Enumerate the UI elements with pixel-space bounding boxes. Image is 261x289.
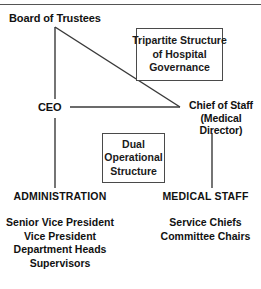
node-chief-of-staff-subtitle: (Medical Director) (182, 112, 260, 137)
column-medical-staff: MEDICAL STAFF Service Chiefs Committee C… (150, 190, 261, 243)
list-item: Committee Chairs (150, 230, 261, 244)
column-medical-staff-list: Service Chiefs Committee Chairs (150, 216, 261, 243)
callout-dual-line-1: Dual (122, 138, 145, 152)
callout-tripartite-line-2: of Hospital (152, 48, 206, 62)
hospital-governance-diagram: Board of Trustees CEO Chief of Staff (Me… (0, 0, 261, 289)
column-administration: ADMINISTRATION Senior Vice President Vic… (0, 190, 120, 270)
node-chief-of-staff-title: Chief of Staff (182, 99, 260, 112)
callout-tripartite-structure: Tripartite Structure of Hospital Governa… (136, 28, 223, 81)
column-administration-list: Senior Vice President Vice President Dep… (0, 216, 120, 270)
list-item: Service Chiefs (150, 216, 261, 230)
column-medical-staff-heading: MEDICAL STAFF (150, 190, 261, 202)
callout-dual-line-3: Structure (110, 165, 157, 179)
node-ceo: CEO (38, 101, 62, 113)
callout-dual-operational-structure: Dual Operational Structure (102, 133, 165, 183)
list-item: Vice President (0, 230, 120, 244)
list-item: Senior Vice President (0, 216, 120, 230)
callout-dual-line-2: Operational (104, 151, 162, 165)
list-item: Department Heads (0, 243, 120, 257)
callout-tripartite-line-3: Governance (149, 61, 210, 75)
list-item: Supervisors (0, 257, 120, 271)
node-board-of-trustees: Board of Trustees (9, 12, 101, 24)
callout-tripartite-line-1: Tripartite Structure (132, 34, 227, 48)
column-administration-heading: ADMINISTRATION (0, 190, 120, 202)
node-chief-of-staff: Chief of Staff (Medical Director) (182, 99, 260, 137)
